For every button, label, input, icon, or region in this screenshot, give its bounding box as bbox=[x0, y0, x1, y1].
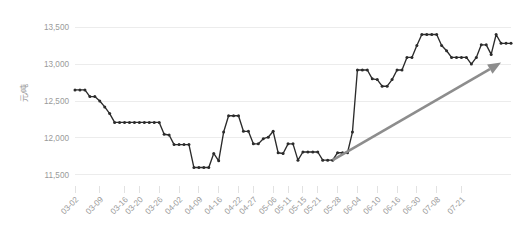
data-point bbox=[168, 134, 171, 137]
data-point bbox=[376, 78, 379, 81]
data-point bbox=[187, 143, 190, 146]
data-point bbox=[396, 68, 399, 71]
x-axis-tick-label: 05-21 bbox=[302, 195, 323, 216]
data-point bbox=[207, 166, 210, 169]
data-point bbox=[326, 159, 329, 162]
x-axis-tick-label: 06-30 bbox=[401, 195, 422, 216]
data-point bbox=[316, 151, 319, 154]
data-point bbox=[430, 33, 433, 36]
data-point bbox=[133, 121, 136, 124]
data-point bbox=[460, 56, 463, 59]
x-axis-tick-label: 04-02 bbox=[163, 195, 184, 216]
data-point bbox=[183, 143, 186, 146]
y-axis-tick-label: 12,000 bbox=[44, 134, 69, 143]
data-point bbox=[410, 56, 413, 59]
data-point bbox=[301, 151, 304, 154]
x-axis-tick-label: 03-26 bbox=[143, 195, 164, 216]
data-point bbox=[415, 44, 418, 47]
data-point bbox=[366, 68, 369, 71]
data-point bbox=[336, 151, 339, 154]
data-point bbox=[272, 130, 275, 133]
data-point bbox=[500, 42, 503, 45]
data-point bbox=[83, 88, 86, 91]
data-point bbox=[292, 142, 295, 145]
data-point bbox=[510, 42, 513, 45]
x-axis-tick-label: 06-10 bbox=[361, 195, 382, 216]
x-axis-tick-label: 04-09 bbox=[183, 195, 204, 216]
x-axis-tick-label: 03-20 bbox=[124, 195, 145, 216]
data-point bbox=[306, 151, 309, 154]
data-point bbox=[381, 85, 384, 88]
data-point bbox=[123, 121, 126, 124]
data-point bbox=[277, 151, 280, 154]
data-point bbox=[202, 166, 205, 169]
data-point bbox=[435, 33, 438, 36]
x-axis-ticks bbox=[75, 186, 461, 193]
data-point bbox=[450, 56, 453, 59]
data-point bbox=[118, 121, 121, 124]
data-point bbox=[480, 43, 483, 46]
data-point bbox=[311, 151, 314, 154]
x-axis-tick-label: 05-28 bbox=[322, 195, 343, 216]
y-axis-tick-label: 13,500 bbox=[44, 23, 69, 32]
data-point bbox=[237, 114, 240, 117]
price-line-chart: 11,50012,00012,50013,00013,500元/吨03-0203… bbox=[0, 0, 519, 237]
data-point bbox=[108, 112, 111, 115]
x-axis-tick-label: 07-21 bbox=[446, 195, 467, 216]
x-axis-tick-label: 04-27 bbox=[238, 195, 259, 216]
data-point bbox=[212, 152, 215, 155]
chart-canvas: 11,50012,00012,50013,00013,500元/吨03-0203… bbox=[0, 0, 519, 237]
data-point bbox=[192, 166, 195, 169]
data-point bbox=[78, 88, 81, 91]
x-axis-tick-label: 03-02 bbox=[59, 195, 80, 216]
data-point bbox=[232, 114, 235, 117]
y-axis-tick-label: 11,500 bbox=[45, 171, 70, 180]
data-point bbox=[470, 63, 473, 66]
data-point bbox=[148, 121, 151, 124]
data-point bbox=[351, 131, 354, 134]
data-point bbox=[222, 131, 225, 134]
data-point bbox=[247, 130, 250, 133]
data-point bbox=[252, 142, 255, 145]
x-axis-tick-label: 03-09 bbox=[84, 195, 105, 216]
data-point bbox=[465, 56, 468, 59]
data-point bbox=[321, 159, 324, 162]
data-point bbox=[401, 68, 404, 71]
data-point bbox=[267, 136, 270, 139]
y-axis-title: 元/吨 bbox=[19, 84, 29, 102]
data-point bbox=[88, 95, 91, 98]
data-point bbox=[495, 33, 498, 36]
data-point bbox=[445, 49, 448, 52]
data-point bbox=[386, 85, 389, 88]
data-point bbox=[440, 44, 443, 47]
data-point bbox=[356, 68, 359, 71]
data-point bbox=[455, 56, 458, 59]
data-point bbox=[128, 121, 131, 124]
y-axis-tick-label: 13,000 bbox=[44, 60, 69, 69]
y-axis-tick-label: 12,500 bbox=[44, 97, 69, 106]
data-point bbox=[242, 130, 245, 133]
data-point bbox=[361, 68, 364, 71]
data-point bbox=[143, 121, 146, 124]
x-axis-tick-label: 04-16 bbox=[203, 195, 224, 216]
data-point bbox=[158, 121, 161, 124]
data-point bbox=[93, 95, 96, 98]
data-point bbox=[391, 78, 394, 81]
data-point bbox=[178, 143, 181, 146]
data-point bbox=[296, 159, 299, 162]
data-point bbox=[113, 121, 116, 124]
data-point bbox=[257, 142, 260, 145]
data-point bbox=[103, 105, 106, 108]
data-point bbox=[505, 42, 508, 45]
data-point bbox=[98, 100, 101, 103]
data-point bbox=[197, 166, 200, 169]
data-point bbox=[217, 159, 220, 162]
data-point bbox=[405, 56, 408, 59]
x-axis-tick-label: 06-04 bbox=[342, 195, 363, 216]
data-point bbox=[420, 33, 423, 36]
data-point bbox=[138, 121, 141, 124]
data-point bbox=[227, 114, 230, 117]
data-point bbox=[74, 88, 77, 91]
data-point bbox=[163, 133, 166, 136]
data-point bbox=[287, 142, 290, 145]
